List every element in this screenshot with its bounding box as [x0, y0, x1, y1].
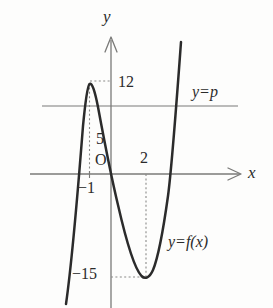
- line-label-y-equals-p: y=p: [192, 84, 218, 100]
- y-tick-label-12: 12: [118, 74, 134, 90]
- y-tick-label-neg15: −15: [72, 266, 97, 282]
- x-axis: [30, 168, 241, 180]
- x-tick-label-2: 2: [140, 150, 148, 166]
- y-tick-label-5: 5: [96, 131, 104, 147]
- figure-page: y x 12 5 O 2 −1 −15 y=p y=f(x): [0, 0, 273, 308]
- y-axis-label: y: [103, 8, 111, 25]
- function-graph-figure: [0, 0, 273, 308]
- x-tick-label-neg1: −1: [78, 180, 95, 196]
- origin-label: O: [95, 152, 107, 168]
- x-axis-label: x: [248, 164, 256, 181]
- curve-label-y-equals-f-of-x: y=f(x): [168, 234, 208, 250]
